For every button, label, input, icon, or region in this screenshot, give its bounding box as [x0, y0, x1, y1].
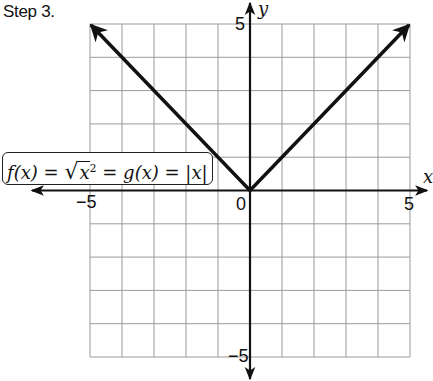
x-axis-label: x	[423, 166, 433, 187]
g-part: = g(x) = |x|	[97, 162, 208, 183]
radical-sign: √	[64, 159, 78, 184]
x-tick-max: 5	[404, 194, 414, 215]
exponent: 2	[90, 162, 97, 175]
y-axis-label: y	[258, 0, 268, 19]
y-tick-min: −5	[228, 346, 249, 367]
y-tick-max: 5	[235, 14, 245, 35]
function-label: f(x) = √x2 = g(x) = |x|	[2, 152, 213, 185]
x-tick-min: −5	[76, 192, 97, 213]
radicand: x	[78, 161, 89, 183]
f-part: f(x) =	[7, 162, 64, 183]
x-tick-origin: 0	[236, 194, 246, 215]
coordinate-plane	[0, 0, 433, 381]
